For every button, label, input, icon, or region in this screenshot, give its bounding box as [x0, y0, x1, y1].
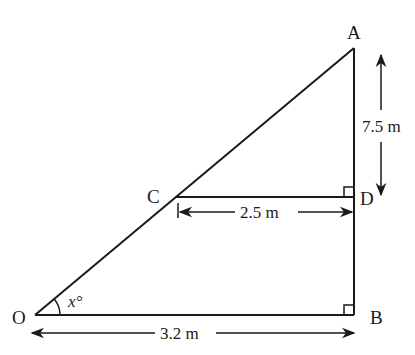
line-OA	[35, 48, 354, 315]
point-label-C: C	[147, 186, 160, 207]
measurement-label-CD: 2.5 m	[240, 203, 279, 222]
point-label-O: O	[12, 307, 26, 328]
triangle-diagram: A B C D O 7.5 m 2.5 m 3.2 m x°	[0, 0, 415, 355]
right-angle-marker-D	[344, 187, 354, 197]
point-label-B: B	[370, 307, 383, 328]
angle-label-x: x°	[67, 292, 83, 311]
point-label-D: D	[360, 188, 374, 209]
right-angle-marker-B	[344, 305, 354, 315]
angle-arc-O	[54, 299, 60, 315]
point-label-A: A	[347, 22, 361, 43]
measurement-label-OB: 3.2 m	[160, 324, 199, 343]
measurement-label-AD: 7.5 m	[362, 117, 401, 136]
